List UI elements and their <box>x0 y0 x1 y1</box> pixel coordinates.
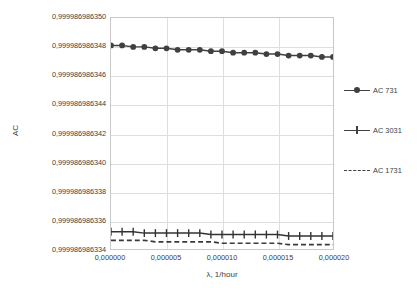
line-chart: AC 0,9999869863500,9999869863480,9999869… <box>0 0 420 297</box>
data-point-marker <box>130 44 136 50</box>
data-point-marker <box>252 50 258 56</box>
data-point-marker <box>241 50 247 56</box>
legend-label: AC 731 <box>373 86 398 95</box>
data-point-marker <box>264 51 270 57</box>
legend-label: AC 3031 <box>373 126 402 135</box>
data-point-marker <box>297 53 303 59</box>
legend-label: AC 1731 <box>373 166 402 175</box>
data-point-marker <box>141 44 147 50</box>
data-point-marker <box>330 54 334 60</box>
y-axis-tick-label: 0,999986986348 <box>2 42 106 50</box>
chart-legend: AC 731 AC 3031 AC 1731 <box>344 84 418 176</box>
y-axis-tick-label: 0,999986986344 <box>2 100 106 108</box>
y-axis-tick-label: 0,999986986346 <box>2 71 106 79</box>
data-point-marker <box>119 43 125 49</box>
data-point-marker <box>153 45 159 51</box>
legend-key-plus-line-icon <box>344 125 370 135</box>
data-point-marker <box>186 47 192 53</box>
data-point-marker <box>110 43 114 49</box>
data-point-marker <box>219 48 225 54</box>
y-axis-tick-label: 0,999986986338 <box>2 188 106 196</box>
data-point-marker <box>275 51 281 57</box>
series-line-ac-1731 <box>111 240 333 244</box>
legend-key-dashed-line-icon <box>344 165 370 175</box>
y-axis-tick-label: 0,999986986342 <box>2 130 106 138</box>
data-point-marker <box>175 47 181 53</box>
data-point-marker <box>208 48 214 54</box>
y-axis-tick-label: 0,999986986336 <box>2 217 106 225</box>
y-axis-tick-label: 0,999986986350 <box>2 13 106 21</box>
series-layer <box>111 18 333 249</box>
plot-area <box>110 17 334 250</box>
x-axis-title: λ, 1/hour <box>110 270 334 279</box>
data-point-marker <box>164 45 170 51</box>
legend-key-circle-line-icon <box>344 85 370 95</box>
data-point-marker <box>286 53 292 59</box>
data-point-marker <box>319 54 325 60</box>
data-point-marker <box>197 47 203 53</box>
legend-item-ac-3031[interactable]: AC 3031 <box>344 124 418 136</box>
legend-item-ac-1731[interactable]: AC 1731 <box>344 164 418 176</box>
legend-item-ac-731[interactable]: AC 731 <box>344 84 418 96</box>
data-point-marker <box>230 50 236 56</box>
y-axis-tick-label: 0,999986986340 <box>2 159 106 167</box>
x-axis-tick-label: 0,000020 <box>299 253 369 262</box>
data-point-marker <box>308 53 314 59</box>
